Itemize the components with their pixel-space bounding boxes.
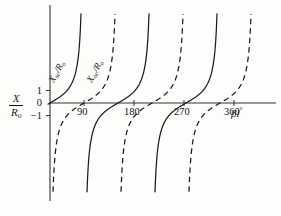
x-axis-degree-symbol: ° (240, 106, 243, 115)
x-axis-title-main: βl (231, 107, 240, 119)
x-tick-label-180: 180 (124, 106, 140, 117)
y-tick-label-1: 1 (26, 85, 42, 96)
reactance-chart-figure: X Ro 1 0 −1 90 180 270 360 βl° Xsc/Ro Xo… (0, 0, 281, 216)
x-axis-title: βl° (231, 106, 243, 119)
x-tick-label-270: 270 (174, 106, 190, 117)
y-axis-title-numerator: X (9, 93, 23, 106)
y-tick-label-minus-1: −1 (20, 110, 42, 121)
curve-short-circuit-branch (48, 14, 81, 104)
x-tick-label-90: 90 (77, 106, 88, 117)
y-tick-label-0: 0 (26, 97, 42, 108)
